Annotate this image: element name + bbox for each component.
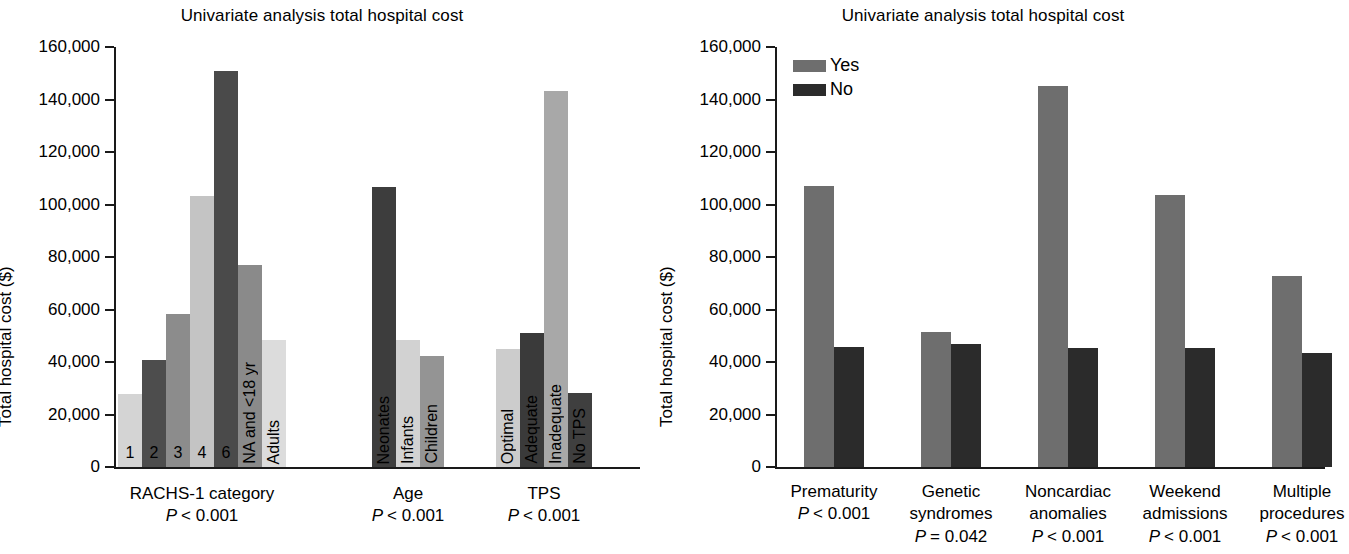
y-axis-tick	[766, 99, 775, 101]
y-axis-tick-label: 100,000	[10, 195, 100, 215]
y-axis-line	[775, 47, 777, 469]
bar-category-label: Neonates	[375, 396, 393, 465]
bar	[1155, 195, 1185, 467]
group-caption: MultipleproceduresP < 0.001	[1212, 481, 1349, 548]
plot-area-left: 020,00040,00060,00080,000100,000120,0001…	[0, 0, 665, 554]
y-axis-tick-label: 60,000	[10, 300, 100, 320]
y-axis-tick	[105, 361, 114, 363]
y-axis-tick-label: 40,000	[10, 352, 100, 372]
y-axis-tick-label: 20,000	[671, 405, 761, 425]
bar: 1	[118, 394, 142, 467]
bar-category-label: 3	[174, 444, 183, 462]
bar-category-label: Optimal	[499, 409, 517, 464]
legend: YesNo	[793, 55, 859, 103]
bar	[1185, 348, 1215, 467]
y-axis-tick	[766, 361, 775, 363]
bar	[921, 332, 951, 467]
legend-swatch-yes	[793, 60, 826, 72]
y-axis-tick	[105, 466, 114, 468]
bar	[951, 344, 981, 467]
bar: Adequate	[520, 333, 544, 467]
bar: 4	[190, 196, 214, 467]
bar: Optimal	[496, 349, 520, 467]
bar	[1038, 86, 1068, 467]
group-name: TPS	[414, 483, 674, 505]
y-axis-tick-label: 160,000	[10, 37, 100, 57]
y-axis-tick-label: 20,000	[10, 405, 100, 425]
y-axis-tick	[105, 309, 114, 311]
legend-label: Yes	[830, 55, 859, 76]
y-axis-title: Total hospital cost ($)	[657, 266, 677, 427]
legend-item: Yes	[793, 55, 859, 76]
y-axis-tick-label: 160,000	[671, 37, 761, 57]
bar: Inadequate	[544, 91, 568, 467]
bar: Children	[420, 356, 444, 467]
y-axis-tick-label: 140,000	[10, 90, 100, 110]
chart-panel-left: Univariate analysis total hospital cost …	[0, 0, 665, 554]
bar	[1272, 276, 1302, 467]
bar-category-label: Infants	[399, 416, 417, 464]
y-axis-tick	[105, 414, 114, 416]
group-name-line1: Multiple	[1212, 481, 1349, 503]
y-axis-title: Total hospital cost ($)	[0, 266, 16, 427]
bar	[834, 347, 864, 467]
y-axis-tick-label: 120,000	[671, 142, 761, 162]
bar-category-label: Adults	[265, 420, 283, 464]
bar-category-label: 4	[198, 444, 207, 462]
legend-label: No	[830, 79, 853, 100]
x-axis-line	[114, 467, 640, 469]
bar-category-label: Inadequate	[547, 384, 565, 464]
y-axis-tick-label: 80,000	[671, 247, 761, 267]
bar-category-label: 1	[126, 444, 135, 462]
legend-item: No	[793, 79, 859, 100]
bar	[1068, 348, 1098, 467]
bar-category-label: 2	[150, 444, 159, 462]
y-axis-tick	[766, 46, 775, 48]
y-axis-tick	[766, 204, 775, 206]
y-axis-tick	[766, 309, 775, 311]
bar: Adults	[262, 340, 286, 467]
y-axis-tick	[766, 414, 775, 416]
y-axis-tick-label: 140,000	[671, 90, 761, 110]
y-axis-tick-label: 80,000	[10, 247, 100, 267]
group-caption: TPSP < 0.001	[414, 483, 674, 528]
bar: Neonates	[372, 187, 396, 467]
y-axis-tick-label: 120,000	[10, 142, 100, 162]
y-axis-tick	[105, 99, 114, 101]
bar: 3	[166, 314, 190, 467]
group-pvalue: P < 0.001	[1212, 526, 1349, 548]
plot-area-right: 020,00040,00060,00080,000100,000120,0001…	[665, 0, 1330, 554]
y-axis-line	[114, 47, 116, 469]
y-axis-tick	[105, 46, 114, 48]
bar-category-label: NA and <18 yr	[241, 362, 259, 464]
bar	[804, 186, 834, 467]
y-axis-tick-label: 100,000	[671, 195, 761, 215]
y-axis-tick	[105, 256, 114, 258]
group-name-line2: procedures	[1212, 503, 1349, 525]
y-axis-tick-label: 40,000	[671, 352, 761, 372]
bar: NA and <18 yr	[238, 265, 262, 467]
y-axis-tick-label: 0	[10, 457, 100, 477]
y-axis-tick	[766, 151, 775, 153]
bar-category-label: No TPS	[571, 408, 589, 464]
group-pvalue: P < 0.001	[414, 505, 674, 527]
bar-category-label: Adequate	[523, 395, 541, 464]
bar-category-label: Children	[423, 404, 441, 464]
bar: Infants	[396, 340, 420, 467]
y-axis-tick	[105, 151, 114, 153]
x-axis-line	[775, 467, 1325, 469]
bar-category-label: 6	[222, 444, 231, 462]
y-axis-tick	[105, 204, 114, 206]
chart-panel-right: Univariate analysis total hospital cost …	[665, 0, 1330, 554]
y-axis-tick-label: 60,000	[671, 300, 761, 320]
bar: 6	[214, 71, 238, 467]
legend-swatch-no	[793, 84, 826, 96]
y-axis-tick	[766, 466, 775, 468]
y-axis-tick-label: 0	[671, 457, 761, 477]
bar: No TPS	[568, 393, 592, 467]
bar	[1302, 353, 1332, 467]
bar: 2	[142, 360, 166, 467]
y-axis-tick	[766, 256, 775, 258]
